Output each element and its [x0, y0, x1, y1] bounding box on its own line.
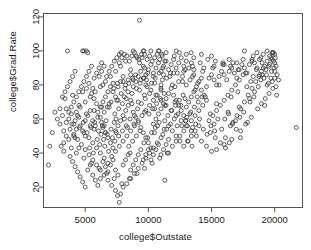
data-point: [60, 114, 64, 118]
data-point: [213, 129, 217, 133]
data-point: [55, 117, 59, 121]
data-point: [124, 109, 128, 113]
data-point: [98, 177, 102, 181]
data-point: [93, 178, 97, 182]
data-point: [139, 102, 143, 106]
data-point: [259, 102, 263, 106]
data-point: [95, 146, 99, 150]
data-point: [271, 86, 275, 90]
data-point: [112, 120, 116, 124]
data-point: [142, 141, 146, 145]
data-point: [187, 100, 191, 104]
data-point: [197, 109, 201, 113]
data-point: [204, 85, 208, 89]
data-point: [63, 90, 67, 94]
data-point: [234, 83, 238, 87]
data-point: [164, 97, 168, 101]
data-point: [193, 114, 197, 118]
data-point: [66, 49, 70, 53]
data-point: [53, 110, 57, 114]
data-point: [95, 102, 99, 106]
data-point: [87, 69, 91, 73]
data-point: [222, 73, 226, 77]
data-point: [187, 66, 191, 70]
data-point: [100, 61, 104, 65]
data-point: [84, 74, 88, 78]
data-point: [136, 166, 140, 170]
data-point: [134, 134, 138, 138]
data-point: [114, 149, 118, 153]
data-point: [151, 98, 155, 102]
data-point: [199, 88, 203, 92]
data-point: [139, 69, 143, 73]
data-point: [223, 117, 227, 121]
data-point: [121, 163, 125, 167]
data-point: [151, 153, 155, 157]
data-point: [134, 86, 138, 90]
data-point: [110, 136, 114, 140]
data-point: [86, 168, 90, 172]
data-point: [155, 102, 159, 106]
data-point: [87, 136, 91, 140]
data-point: [230, 137, 234, 141]
x-tick-label: 15000: [198, 214, 224, 225]
data-point: [82, 80, 86, 84]
data-point: [242, 100, 246, 104]
data-point: [115, 56, 119, 60]
data-point: [162, 91, 166, 95]
data-point: [218, 103, 222, 107]
data-point: [91, 151, 95, 155]
data-point: [192, 56, 196, 60]
x-tick-label: 20000: [261, 214, 287, 225]
data-point: [91, 141, 95, 145]
data-point: [166, 114, 170, 118]
data-point: [90, 64, 94, 68]
data-point: [220, 127, 224, 131]
data-point: [99, 132, 103, 136]
data-point: [114, 168, 118, 172]
data-point: [116, 173, 120, 177]
data-point: [76, 170, 80, 174]
data-point: [170, 144, 174, 148]
data-point: [198, 117, 202, 121]
data-point: [58, 122, 62, 126]
data-point: [96, 110, 100, 114]
data-point: [119, 119, 123, 123]
data-point: [136, 153, 140, 157]
data-point: [107, 149, 111, 153]
data-point: [135, 171, 139, 175]
data-point: [198, 61, 202, 65]
data-point: [112, 177, 116, 181]
data-point: [110, 183, 114, 187]
data-point: [213, 59, 217, 63]
data-point: [275, 93, 279, 97]
data-point: [110, 64, 114, 68]
data-point: [69, 146, 73, 150]
data-point: [95, 71, 99, 75]
data-point: [179, 109, 183, 113]
data-point: [98, 143, 102, 147]
data-point: [47, 163, 51, 167]
data-point: [170, 129, 174, 133]
data-point: [143, 166, 147, 170]
data-point: [199, 52, 203, 56]
data-point: [149, 49, 153, 53]
data-point: [182, 129, 186, 133]
data-point: [125, 134, 129, 138]
data-point: [238, 136, 242, 140]
data-point: [83, 100, 87, 104]
data-point: [74, 151, 78, 155]
data-point: [167, 137, 171, 141]
data-point: [294, 126, 298, 130]
data-point: [64, 134, 68, 138]
data-point: [163, 178, 167, 182]
plot-canvas: 500010000150002000020406080100120: [0, 0, 311, 250]
data-point: [139, 148, 143, 152]
data-point: [148, 103, 152, 107]
data-point: [131, 139, 135, 143]
data-point: [124, 158, 128, 162]
data-point: [117, 144, 121, 148]
data-point: [146, 141, 150, 145]
data-point: [215, 109, 219, 113]
data-point: [66, 85, 70, 89]
